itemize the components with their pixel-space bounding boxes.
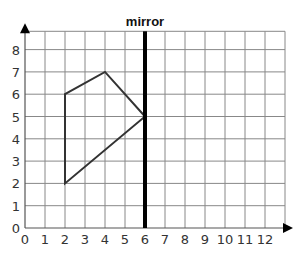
grid-diagram: 0123456789101112012345678mirror — [0, 0, 302, 255]
x-tick-label: 1 — [41, 232, 49, 247]
y-tick-label: 2 — [12, 176, 20, 191]
x-tick-label: 10 — [217, 232, 234, 247]
x-tick-label: 3 — [81, 232, 89, 247]
x-tick-label: 8 — [181, 232, 189, 247]
y-tick-label: 8 — [12, 43, 20, 58]
x-tick-label: 5 — [121, 232, 129, 247]
x-tick-label: 11 — [237, 232, 254, 247]
y-axis-arrow-icon — [20, 23, 30, 33]
y-tick-label: 4 — [12, 132, 20, 147]
x-tick-label: 9 — [201, 232, 209, 247]
mirror-label: mirror — [126, 14, 164, 29]
y-tick-label: 0 — [12, 221, 20, 236]
y-tick-label: 7 — [12, 65, 20, 80]
x-tick-label: 4 — [101, 232, 109, 247]
x-tick-label: 7 — [161, 232, 169, 247]
x-tick-label: 12 — [257, 232, 274, 247]
y-tick-label: 5 — [12, 110, 20, 125]
x-axis-arrow-icon — [283, 223, 293, 233]
x-tick-label: 0 — [21, 232, 29, 247]
x-tick-label: 6 — [141, 232, 149, 247]
x-tick-label: 2 — [61, 232, 69, 247]
y-tick-label: 1 — [12, 199, 20, 214]
y-tick-label: 3 — [12, 154, 20, 169]
y-tick-label: 6 — [12, 87, 20, 102]
